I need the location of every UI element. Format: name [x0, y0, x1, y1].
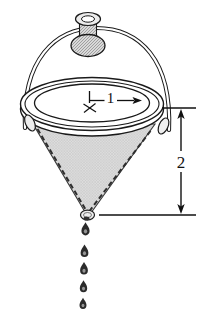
rim-opening-ellipse [35, 84, 150, 122]
figure-canvas: 1 2 [0, 0, 198, 316]
water-drop [80, 262, 88, 275]
funnel-diagram: 1 2 [0, 0, 198, 316]
handle-knob [71, 13, 105, 57]
water-drop [81, 245, 89, 258]
drip-tip [81, 210, 95, 220]
depth-label: 2 [177, 153, 186, 172]
water-drop [81, 222, 89, 235]
tip-opening [84, 217, 90, 221]
water-drop [79, 298, 86, 309]
cone-body [33, 124, 155, 217]
radius-label: 1 [107, 90, 115, 106]
mesh-cone [33, 124, 155, 217]
knob-top-hole [82, 16, 95, 22]
water-drop [80, 280, 87, 292]
water-drops [79, 222, 89, 309]
knob-base-disk [71, 35, 105, 57]
